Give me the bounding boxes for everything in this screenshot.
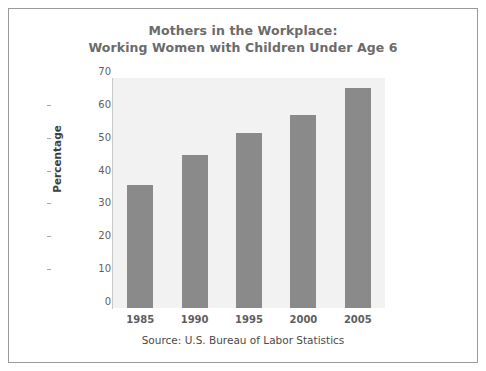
y-tick-60: 60 (53, 99, 111, 111)
x-tick-label-2005: 2005 (330, 314, 386, 325)
y-tick-label: 50 (98, 132, 111, 143)
bar-1995 (236, 133, 262, 308)
y-tick-label: 20 (98, 230, 111, 241)
chart-title-line-1: Mothers in the Workplace: (0, 22, 486, 39)
y-tick-30: 30 (53, 197, 111, 209)
y-tick-70: 70 (53, 66, 111, 78)
y-tick-0: 0 (53, 296, 111, 308)
bar-slot-2000 (275, 78, 331, 308)
x-tick-label-1990: 1990 (167, 314, 223, 325)
bar-slot-1995 (221, 78, 277, 308)
chart-figure: Mothers in the Workplace: Working Women … (0, 0, 486, 371)
y-tick-mark (47, 138, 51, 139)
y-tick-mark (47, 171, 51, 172)
x-tick-label-2000: 2000 (275, 314, 331, 325)
x-tick-label-1995: 1995 (221, 314, 277, 325)
plot-area-wrapper: 010203040506070 19851990199520002005 (113, 78, 385, 308)
bar-1990 (182, 155, 208, 308)
y-tick-10: 10 (53, 263, 111, 275)
chart-title-line-2: Working Women with Children Under Age 6 (0, 39, 486, 56)
bar-slot-1990 (167, 78, 223, 308)
bar-series (113, 78, 385, 308)
chart-title: Mothers in the Workplace: Working Women … (0, 22, 486, 56)
y-tick-mark (47, 105, 51, 106)
y-tick-label: 40 (98, 165, 111, 176)
y-tick-mark (47, 269, 51, 270)
y-tick-label: 10 (98, 263, 111, 274)
bar-2000 (290, 115, 316, 308)
bar-1985 (127, 185, 153, 308)
source-note: Source: U.S. Bureau of Labor Statistics (0, 334, 486, 346)
y-tick-label: 70 (98, 66, 111, 77)
y-tick-label: 0 (105, 296, 111, 307)
y-tick-40: 40 (53, 165, 111, 177)
x-tick-label-1985: 1985 (112, 314, 168, 325)
y-tick-50: 50 (53, 132, 111, 144)
bar-slot-1985 (112, 78, 168, 308)
y-tick-mark (47, 236, 51, 237)
y-tick-mark (47, 203, 51, 204)
bar-slot-2005 (330, 78, 386, 308)
bar-2005 (345, 88, 371, 308)
y-tick-label: 60 (98, 99, 111, 110)
y-tick-label: 30 (98, 197, 111, 208)
y-tick-20: 20 (53, 230, 111, 242)
